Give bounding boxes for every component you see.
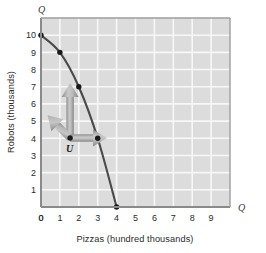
y-axis-title: Robots (thousands) — [6, 71, 16, 153]
x-axis-tick-labels: 0123456789 — [38, 213, 213, 223]
x-tick-label: 1 — [57, 213, 62, 223]
curve-point-marker — [76, 84, 81, 89]
curve-point-marker — [95, 136, 100, 141]
y-tick-label: 7 — [31, 82, 36, 92]
x-tick-label: 9 — [209, 213, 214, 223]
y-tick-label: 3 — [31, 151, 36, 161]
y-tick-label: 4 — [31, 134, 36, 144]
x-axis-title: Pizzas (hundred thousands) — [77, 234, 194, 244]
y-tick-label: 5 — [31, 116, 36, 126]
y-tick-label: 9 — [31, 48, 36, 58]
x-tick-label: 3 — [95, 213, 100, 223]
point-u-marker — [67, 135, 72, 140]
chart-canvas: U 0123456789 012345678910 Pizzas (hundre… — [0, 0, 266, 253]
y-tick-label: 8 — [31, 65, 36, 75]
y-tick-label: 1 — [31, 185, 36, 195]
y-axis-quantity-symbol: Q — [38, 4, 46, 15]
point-u-label: U — [66, 143, 74, 154]
x-tick-label: 8 — [190, 213, 195, 223]
x-tick-label: 2 — [76, 213, 81, 223]
curve-point-marker — [57, 50, 62, 55]
ppf-chart: U 0123456789 012345678910 Pizzas (hundre… — [0, 0, 266, 253]
y-tick-label: 0 — [38, 213, 43, 223]
x-tick-label: 4 — [114, 213, 119, 223]
x-tick-label: 5 — [133, 213, 138, 223]
y-tick-label: 10 — [26, 30, 36, 40]
x-tick-label: 7 — [171, 213, 176, 223]
y-tick-label: 6 — [31, 99, 36, 109]
y-tick-label: 2 — [31, 168, 36, 178]
x-tick-label: 6 — [152, 213, 157, 223]
x-axis-quantity-symbol: Q — [238, 202, 246, 213]
